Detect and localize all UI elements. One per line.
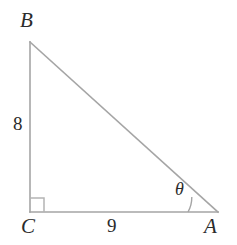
angle-arc-theta-icon <box>188 197 192 212</box>
vertex-label-a: A <box>204 216 217 237</box>
right-angle-marker-icon <box>30 198 44 212</box>
triangle-drawing <box>0 0 237 245</box>
right-triangle-figure: B C A 8 9 θ <box>0 0 237 245</box>
triangle-side-ba <box>30 42 218 212</box>
vertex-label-c: C <box>21 216 35 237</box>
side-length-label-ca: 9 <box>107 216 117 235</box>
angle-label-theta: θ <box>175 180 184 198</box>
side-length-label-bc: 8 <box>13 114 23 133</box>
vertex-label-b: B <box>20 10 33 31</box>
